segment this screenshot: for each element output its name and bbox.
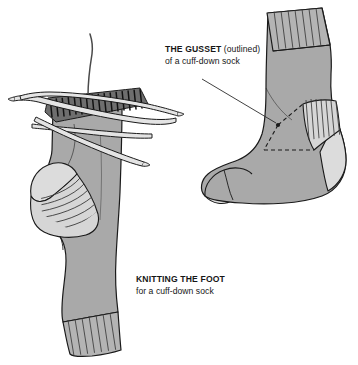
left-sock-diagram xyxy=(8,34,184,356)
gusset-label-title-bold: THE GUSSET xyxy=(165,44,221,54)
foot-label-title-bold: KNITTING THE FOOT xyxy=(136,274,225,284)
illustration-page: THE GUSSET (outlined) of a cuff-down soc… xyxy=(0,0,358,365)
right-sock-diagram xyxy=(201,8,346,204)
gusset-label-title: THE GUSSET (outlined) xyxy=(165,44,260,54)
working-yarn xyxy=(88,34,92,96)
gusset-label-title-regular: (outlined) xyxy=(221,44,260,54)
foot-label-title: KNITTING THE FOOT xyxy=(136,274,225,284)
foot-label-subtitle: for a cuff-down sock xyxy=(136,286,225,296)
gusset-label: THE GUSSET (outlined) of a cuff-down soc… xyxy=(165,44,260,66)
gusset-label-subtitle: of a cuff-down sock xyxy=(165,56,260,66)
gusset-leader-line xyxy=(202,79,276,123)
foot-label: KNITTING THE FOOT for a cuff-down sock xyxy=(136,274,225,296)
gusset-apex-dot xyxy=(276,123,280,127)
